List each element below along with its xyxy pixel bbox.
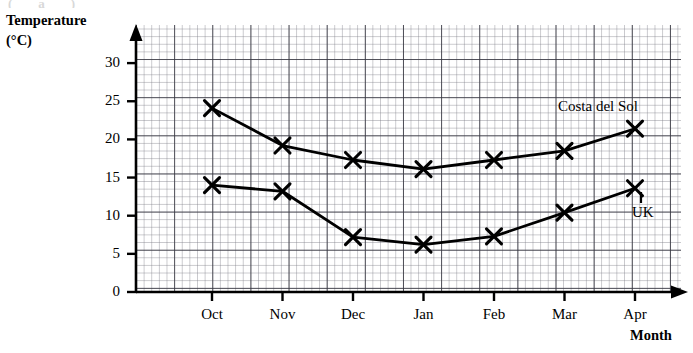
- series-label-uk: UK: [632, 204, 654, 221]
- data-point-costa-del-sol-oct: [205, 101, 220, 116]
- series-label-costa-del-sol: Costa del Sol: [558, 98, 638, 115]
- series-line-uk: [212, 185, 635, 245]
- x-tick-label: Feb: [464, 306, 524, 323]
- y-tick-label: 20: [94, 130, 120, 147]
- x-tick-label: Oct: [182, 306, 242, 323]
- y-tick-label: 5: [94, 245, 120, 262]
- axis-layer: [130, 24, 689, 299]
- x-tick-label: Apr: [605, 306, 665, 323]
- x-tick-label: Nov: [253, 306, 313, 323]
- y-axis-arrowhead: [130, 24, 143, 41]
- y-tick-label: 0: [94, 283, 120, 300]
- x-tick-label: Jan: [394, 306, 454, 323]
- y-tick-label: 15: [94, 169, 120, 186]
- y-tick-label: 25: [94, 92, 120, 109]
- data-point-costa-del-sol-apr: [628, 121, 643, 136]
- y-tick-label: 10: [94, 207, 120, 224]
- x-tick-label: Mar: [535, 306, 595, 323]
- chart-page: (a) (b) Temperature (°C) Month 051015202…: [0, 0, 693, 353]
- data-point-uk-mar: [557, 205, 572, 220]
- x-tick-label: Dec: [323, 306, 383, 323]
- y-tick-label: 30: [94, 54, 120, 71]
- series-layer: [205, 101, 643, 253]
- x-axis-arrowhead: [671, 286, 688, 299]
